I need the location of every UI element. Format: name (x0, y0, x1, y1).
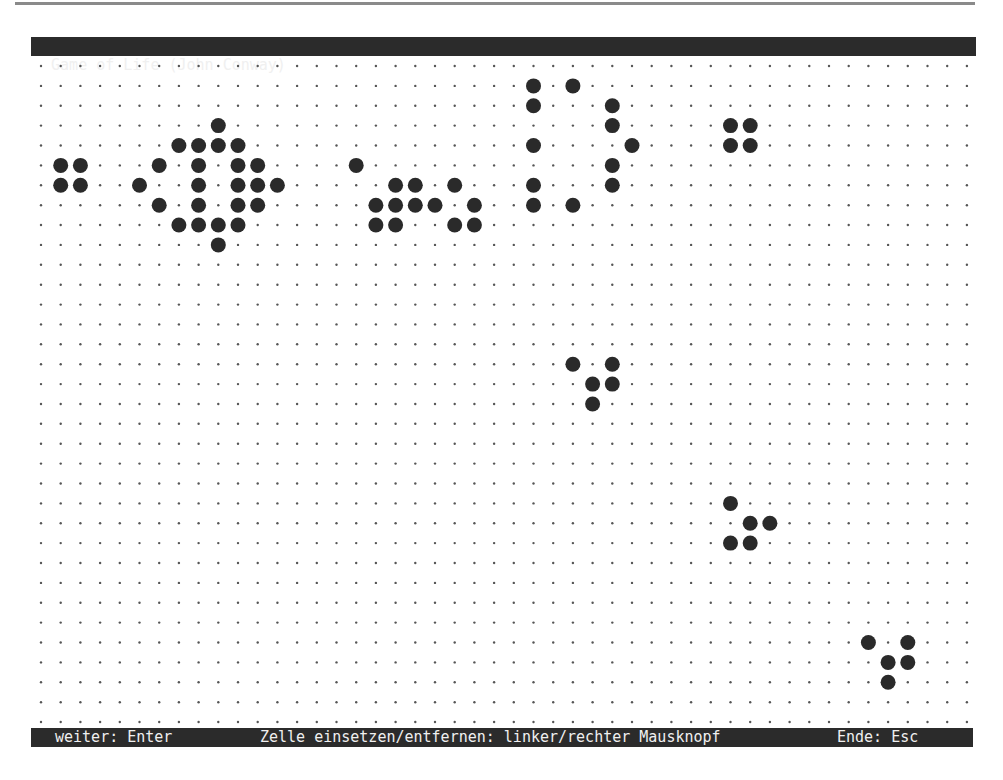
live-cell[interactable] (447, 178, 462, 193)
empty-cell[interactable] (887, 641, 889, 643)
empty-cell[interactable] (749, 65, 751, 67)
empty-cell[interactable] (828, 542, 830, 544)
empty-cell[interactable] (276, 363, 278, 365)
empty-cell[interactable] (552, 303, 554, 305)
empty-cell[interactable] (99, 105, 101, 107)
empty-cell[interactable] (591, 164, 593, 166)
empty-cell[interactable] (394, 124, 396, 126)
empty-cell[interactable] (867, 363, 869, 365)
empty-cell[interactable] (808, 443, 810, 445)
empty-cell[interactable] (237, 264, 239, 266)
empty-cell[interactable] (966, 522, 968, 524)
live-cell[interactable] (723, 118, 738, 133)
empty-cell[interactable] (848, 284, 850, 286)
empty-cell[interactable] (572, 164, 574, 166)
empty-cell[interactable] (828, 85, 830, 87)
empty-cell[interactable] (808, 423, 810, 425)
empty-cell[interactable] (867, 602, 869, 604)
empty-cell[interactable] (276, 423, 278, 425)
empty-cell[interactable] (788, 224, 790, 226)
empty-cell[interactable] (572, 701, 574, 703)
empty-cell[interactable] (197, 681, 199, 683)
empty-cell[interactable] (848, 562, 850, 564)
empty-cell[interactable] (926, 462, 928, 464)
empty-cell[interactable] (710, 224, 712, 226)
empty-cell[interactable] (473, 343, 475, 345)
empty-cell[interactable] (867, 403, 869, 405)
empty-cell[interactable] (808, 602, 810, 604)
empty-cell[interactable] (591, 184, 593, 186)
empty-cell[interactable] (670, 542, 672, 544)
empty-cell[interactable] (966, 403, 968, 405)
live-cell[interactable] (171, 138, 186, 153)
empty-cell[interactable] (946, 105, 948, 107)
empty-cell[interactable] (670, 383, 672, 385)
empty-cell[interactable] (79, 582, 81, 584)
empty-cell[interactable] (651, 85, 653, 87)
empty-cell[interactable] (670, 582, 672, 584)
empty-cell[interactable] (217, 602, 219, 604)
empty-cell[interactable] (434, 124, 436, 126)
empty-cell[interactable] (257, 85, 259, 87)
empty-cell[interactable] (788, 562, 790, 564)
empty-cell[interactable] (434, 164, 436, 166)
empty-cell[interactable] (296, 562, 298, 564)
empty-cell[interactable] (138, 443, 140, 445)
empty-cell[interactable] (454, 621, 456, 623)
empty-cell[interactable] (414, 701, 416, 703)
empty-cell[interactable] (828, 144, 830, 146)
empty-cell[interactable] (158, 224, 160, 226)
empty-cell[interactable] (119, 582, 121, 584)
empty-cell[interactable] (966, 443, 968, 445)
empty-cell[interactable] (296, 284, 298, 286)
empty-cell[interactable] (710, 363, 712, 365)
empty-cell[interactable] (907, 423, 909, 425)
empty-cell[interactable] (729, 621, 731, 623)
empty-cell[interactable] (237, 383, 239, 385)
empty-cell[interactable] (394, 582, 396, 584)
empty-cell[interactable] (611, 522, 613, 524)
empty-cell[interactable] (946, 582, 948, 584)
empty-cell[interactable] (434, 65, 436, 67)
empty-cell[interactable] (158, 522, 160, 524)
empty-cell[interactable] (355, 602, 357, 604)
empty-cell[interactable] (907, 85, 909, 87)
empty-cell[interactable] (99, 303, 101, 305)
live-cell[interactable] (191, 218, 206, 233)
empty-cell[interactable] (178, 343, 180, 345)
empty-cell[interactable] (40, 681, 42, 683)
empty-cell[interactable] (670, 462, 672, 464)
empty-cell[interactable] (828, 224, 830, 226)
empty-cell[interactable] (611, 462, 613, 464)
empty-cell[interactable] (867, 284, 869, 286)
empty-cell[interactable] (355, 124, 357, 126)
empty-cell[interactable] (926, 224, 928, 226)
empty-cell[interactable] (138, 681, 140, 683)
empty-cell[interactable] (473, 582, 475, 584)
empty-cell[interactable] (710, 661, 712, 663)
live-cell[interactable] (388, 178, 403, 193)
empty-cell[interactable] (808, 284, 810, 286)
empty-cell[interactable] (119, 323, 121, 325)
empty-cell[interactable] (926, 701, 928, 703)
empty-cell[interactable] (631, 164, 633, 166)
empty-cell[interactable] (808, 105, 810, 107)
empty-cell[interactable] (769, 661, 771, 663)
empty-cell[interactable] (572, 124, 574, 126)
empty-cell[interactable] (217, 423, 219, 425)
empty-cell[interactable] (99, 482, 101, 484)
empty-cell[interactable] (355, 105, 357, 107)
empty-cell[interactable] (276, 602, 278, 604)
empty-cell[interactable] (394, 343, 396, 345)
empty-cell[interactable] (572, 522, 574, 524)
empty-cell[interactable] (296, 423, 298, 425)
empty-cell[interactable] (375, 144, 377, 146)
empty-cell[interactable] (237, 641, 239, 643)
empty-cell[interactable] (355, 681, 357, 683)
empty-cell[interactable] (217, 204, 219, 206)
empty-cell[interactable] (788, 65, 790, 67)
empty-cell[interactable] (473, 482, 475, 484)
empty-cell[interactable] (729, 522, 731, 524)
empty-cell[interactable] (946, 701, 948, 703)
empty-cell[interactable] (848, 363, 850, 365)
